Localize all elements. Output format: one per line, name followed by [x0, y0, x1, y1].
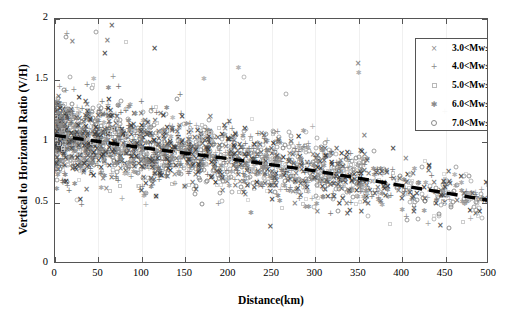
y-axis-tick [482, 203, 487, 204]
x-axis-tick-label: 450 [425, 267, 465, 278]
x-axis-tick [98, 19, 99, 24]
legend-item-mw5-6: 5.0<Mw≤6.0 [416, 76, 488, 94]
plus-marker-icon: + [416, 57, 452, 75]
x-axis-tick-label: 50 [77, 267, 117, 278]
y-axis-tick [55, 80, 60, 81]
asterisk-marker-icon: ✱ [416, 95, 452, 113]
plot-area: +×+✱××+××+✱+++××+××+✱++×✱××++×+××✱+✱×✱✱×… [54, 18, 488, 263]
x-axis-tick-label: 250 [251, 267, 291, 278]
y-axis-tick-label: 0 [14, 256, 48, 267]
legend-item-mw4-5: + 4.0<Mw≤5.0 [416, 57, 488, 75]
square-marker-icon [416, 76, 452, 94]
x-axis-tick [272, 257, 273, 262]
legend-item-label: 4.0<Mw≤5.0 [452, 61, 488, 71]
x-axis-tick [229, 257, 230, 262]
legend-item-mw7-8: 7.0<Mw≤8.0 [416, 114, 488, 132]
y-axis-tick [55, 203, 60, 204]
scatter-plot-figure: Vertical to Horizontal Ratio (V/H) +×+✱×… [0, 0, 512, 318]
x-axis-title: Distance(km) [54, 294, 488, 306]
y-axis-tick-label: 0.5 [14, 195, 48, 206]
x-axis-tick-label: 300 [294, 267, 334, 278]
y-axis-tick-label: 1 [14, 134, 48, 145]
legend-item-mw6-7: ✱ 6.0<Mw≤7.0 [416, 95, 488, 113]
x-axis-tick-label: 0 [34, 267, 74, 278]
legend-item-mw3-4: × 3.0<Mw≤4.0 [416, 39, 488, 57]
x-axis-tick [315, 19, 316, 24]
y-axis-tick [482, 142, 487, 143]
y-axis-tick-label: 2 [14, 11, 48, 22]
x-axis-tick-label: 400 [381, 267, 421, 278]
x-axis-tick [272, 19, 273, 24]
x-axis-tick-label: 150 [164, 267, 204, 278]
x-axis-tick [185, 257, 186, 262]
x-axis-tick [402, 257, 403, 262]
x-axis-tick-label: 100 [121, 267, 161, 278]
x-axis-tick [315, 257, 316, 262]
x-axis-tick [55, 257, 56, 262]
y-axis-tick-label: 1.5 [14, 72, 48, 83]
x-axis-tick [402, 19, 403, 24]
x-axis-tick [359, 257, 360, 262]
legend-item-label: 3.0<Mw≤4.0 [452, 43, 488, 53]
y-axis-tick [55, 19, 60, 20]
x-axis-tick [359, 19, 360, 24]
circle-marker-icon [416, 114, 452, 132]
cross-x-marker-icon: × [416, 39, 452, 57]
x-axis-tick [446, 19, 447, 24]
x-axis-tick [142, 257, 143, 262]
x-axis-tick-label: 200 [208, 267, 248, 278]
legend-item-label: 7.0<Mw≤8.0 [452, 118, 488, 128]
x-axis-tick [185, 19, 186, 24]
y-axis-tick [55, 142, 60, 143]
x-axis-tick [142, 19, 143, 24]
legend-item-label: 6.0<Mw≤7.0 [452, 99, 488, 109]
x-axis-tick-label: 350 [338, 267, 378, 278]
x-axis-tick-label: 500 [468, 267, 508, 278]
x-axis-tick [446, 257, 447, 262]
y-axis-title: Vertical to Horizontal Ratio (V/H) [12, 18, 34, 281]
legend-item-label: 5.0<Mw≤6.0 [452, 80, 488, 90]
x-axis-tick [229, 19, 230, 24]
y-axis-tick [482, 19, 487, 20]
x-axis-tick [98, 257, 99, 262]
legend-box: × 3.0<Mw≤4.0 + 4.0<Mw≤5.0 5.0<Mw≤6.0 ✱ 6… [415, 38, 488, 131]
